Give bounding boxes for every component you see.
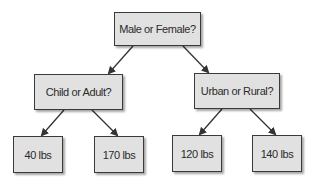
edge-child-to-40	[42, 110, 64, 135]
decision-tree-diagram: Male or Female? Child or Adult? Urban or…	[0, 0, 318, 185]
node-root-gender-question: Male or Female?	[114, 12, 201, 46]
node-label: Male or Female?	[119, 23, 196, 35]
leaf-label: 40 lbs	[25, 149, 52, 161]
node-label: Child or Adult?	[46, 86, 112, 98]
leaf-node: 140 lbs	[252, 135, 302, 172]
leaf-node: 120 lbs	[172, 135, 222, 172]
leaf-node: 170 lbs	[94, 136, 144, 173]
edge-child-to-170	[92, 110, 117, 135]
edge-root-to-urban	[183, 46, 208, 72]
node-label: Urban or Rural?	[201, 85, 273, 97]
edge-urban-to-140	[250, 109, 275, 134]
node-child-adult-question: Child or Adult?	[34, 74, 123, 110]
edge-urban-to-120	[200, 109, 222, 134]
leaf-label: 140 lbs	[261, 148, 294, 160]
edge-root-to-child	[109, 46, 133, 73]
node-urban-rural-question: Urban or Rural?	[194, 73, 280, 109]
leaf-label: 120 lbs	[181, 148, 214, 160]
leaf-label: 170 lbs	[103, 149, 136, 161]
leaf-node: 40 lbs	[13, 136, 63, 173]
